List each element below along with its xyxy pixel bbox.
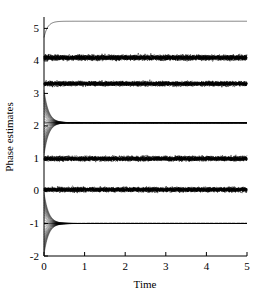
y-axis-tick-label: -1 — [30, 217, 39, 229]
chart-canvas: -2-1012345 012345 Time Phase estimates — [0, 0, 270, 299]
y-axis-title: Phase estimates — [3, 102, 15, 171]
x-axis-tick-label: 4 — [204, 260, 210, 272]
x-axis-tick-label: 5 — [244, 260, 250, 272]
x-axis-tick-label: 2 — [122, 260, 128, 272]
y-axis-tick-label: 0 — [34, 184, 40, 196]
y-axis-tick-label: 1 — [34, 152, 40, 164]
x-axis-tick-label: 1 — [82, 260, 88, 272]
y-axis-tick-label: 2 — [34, 119, 40, 131]
x-axis-tick-label: 0 — [41, 260, 47, 272]
y-axis-tick-label: 3 — [34, 87, 40, 99]
y-axis-tick-label: -2 — [30, 250, 39, 262]
phase-estimates-figure: -2-1012345 012345 Time Phase estimates — [0, 0, 270, 299]
y-axis-tick-label: 4 — [34, 54, 40, 66]
x-axis-tick-label: 3 — [163, 260, 169, 272]
y-axis-tick-label: 5 — [34, 22, 40, 34]
figure-background — [0, 0, 270, 299]
x-axis-title: Time — [134, 278, 157, 290]
